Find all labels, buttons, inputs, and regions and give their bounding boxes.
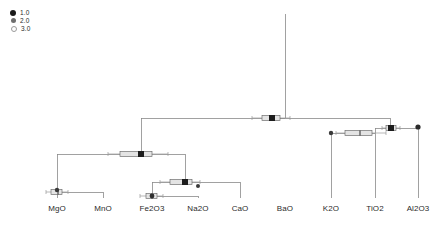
node-point-marker — [55, 188, 59, 192]
leaf-label: MnO — [94, 204, 112, 213]
tree-branch — [57, 192, 103, 198]
tree-branch — [331, 133, 375, 198]
leaf-label: MgO — [48, 204, 66, 213]
leaf-label: TiO2 — [366, 204, 383, 213]
tree-branch — [141, 118, 270, 154]
node-point-marker — [150, 194, 155, 199]
node-boxplot-glyph — [336, 131, 386, 136]
leaf-label: Na2O — [187, 204, 208, 213]
leaf-label: BaO — [277, 204, 293, 213]
leaf-label: CaO — [232, 204, 249, 213]
node-boxplot-glyph — [108, 151, 168, 157]
tree-branch — [57, 154, 141, 192]
tree-node-glyphs — [46, 115, 421, 199]
tree-branch — [141, 154, 185, 182]
dendrogram-canvas — [0, 0, 436, 228]
tree-links — [57, 14, 418, 198]
node-boxplot-glyph — [160, 179, 200, 185]
node-boxplot-glyph — [252, 115, 290, 121]
dendrogram-figure: 1.0 2.0 3.0 MgOMnOFe2O3Na2OCaOBaOK2OTiO2… — [0, 0, 436, 228]
node-boxplot-glyph — [382, 125, 400, 131]
tree-branch — [270, 118, 390, 128]
node-point-marker — [329, 131, 333, 135]
node-point-marker — [196, 184, 200, 188]
tree-branch — [390, 128, 418, 198]
leaf-label: K2O — [323, 204, 339, 213]
leaf-label: Fe2O3 — [140, 204, 165, 213]
leaf-label: Al2O3 — [407, 204, 430, 213]
node-point-marker — [415, 124, 420, 129]
